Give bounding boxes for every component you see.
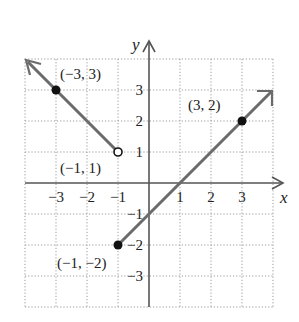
svg-text:−1: −1: [110, 189, 126, 205]
label-point-neg1-neg2: (−1, −2): [57, 255, 106, 272]
svg-text:−3: −3: [48, 189, 64, 205]
x-axis-label: x: [279, 188, 288, 207]
svg-text:−2: −2: [127, 237, 143, 253]
label-point-neg1-1: (−1, 1): [60, 160, 101, 177]
point-neg1-1-open: [114, 148, 122, 156]
y-axis-label: y: [130, 35, 140, 54]
point-neg1-neg2: [114, 241, 123, 250]
svg-text:−3: −3: [127, 268, 143, 284]
svg-text:1: 1: [176, 189, 184, 205]
svg-text:2: 2: [136, 113, 144, 129]
coordinate-plane: (−3, 3) (−1, 1) (3, 2) (−1, −2) −3 −2 −1…: [0, 0, 299, 322]
svg-text:2: 2: [207, 189, 215, 205]
svg-text:3: 3: [238, 189, 246, 205]
svg-text:1: 1: [136, 144, 144, 160]
point-neg3-3: [52, 86, 61, 95]
label-point-3-2: (3, 2): [188, 97, 221, 114]
x-tick-labels: −3 −2 −1 1 2 3: [48, 189, 246, 205]
label-point-neg3-3: (−3, 3): [60, 66, 101, 83]
svg-text:−1: −1: [127, 206, 143, 222]
point-3-2: [238, 117, 247, 126]
svg-text:−2: −2: [79, 189, 95, 205]
svg-text:3: 3: [136, 82, 144, 98]
